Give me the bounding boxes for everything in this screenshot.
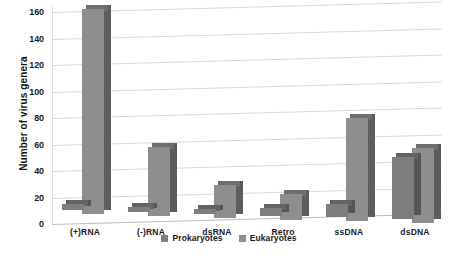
bar-face — [214, 185, 236, 218]
legend-swatch-icon — [161, 235, 168, 242]
legend-label: Prokaryotes — [172, 233, 222, 243]
bar-group — [184, 6, 250, 224]
plot-area — [52, 6, 448, 224]
y-tick-0: 0 — [18, 219, 44, 229]
bar-eukaryotes-(+)RNA — [82, 9, 104, 214]
y-tick-40: 40 — [18, 166, 44, 176]
bar-prokaryotes-ssDNA — [326, 204, 348, 217]
bar-prokaryotes-dsRNA — [194, 209, 216, 214]
bar-face — [62, 204, 84, 211]
y-tick-100: 100 — [18, 87, 44, 97]
bar-prokaryotes-dsDNA — [392, 157, 414, 219]
bar-face — [82, 9, 104, 214]
bar-chart: Number of virus genera 02040608010012014… — [0, 0, 458, 256]
bar-group — [316, 6, 382, 224]
bar-prokaryotes-(+)RNA — [62, 204, 84, 211]
legend-swatch-icon — [239, 235, 246, 242]
y-tick-120: 120 — [18, 60, 44, 70]
legend-item-prokaryotes[interactable]: Prokaryotes — [161, 233, 222, 243]
bar-group — [250, 6, 316, 224]
bar-face — [194, 209, 216, 214]
bar-side — [368, 114, 375, 217]
bar-side — [170, 143, 177, 212]
bar-eukaryotes-dsRNA — [214, 185, 236, 218]
chart-legend: ProkaryotesEukaryotes — [0, 233, 458, 243]
y-tick-20: 20 — [18, 193, 44, 203]
y-tick-60: 60 — [18, 140, 44, 150]
legend-label: Eukaryotes — [250, 233, 297, 243]
bar-prokaryotes-Retro — [260, 208, 282, 216]
bar-prokaryotes-(-)RNA — [128, 207, 150, 212]
y-tick-160: 160 — [18, 7, 44, 17]
bar-group — [382, 6, 448, 224]
y-tick-80: 80 — [18, 113, 44, 123]
bar-face — [128, 207, 150, 212]
bar-side — [104, 5, 111, 210]
bar-face — [260, 208, 282, 216]
bar-group — [118, 6, 184, 224]
bar-face — [392, 157, 414, 219]
bar-face — [326, 204, 348, 217]
legend-item-eukaryotes[interactable]: Eukaryotes — [239, 233, 297, 243]
bar-side — [414, 153, 421, 215]
y-tick-140: 140 — [18, 34, 44, 44]
bar-group — [52, 6, 118, 224]
bar-side — [434, 144, 441, 220]
